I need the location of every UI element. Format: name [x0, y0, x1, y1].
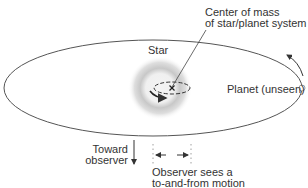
observed-motion-arrows-icon — [153, 144, 191, 166]
center-of-mass-label-line2: of star/planet system — [205, 17, 307, 29]
star-label: Star — [148, 44, 168, 56]
star-glow — [128, 56, 192, 120]
observer-sees-label-line2: to-and-from motion — [152, 177, 245, 188]
planet-label: Planet (unseen) — [227, 83, 305, 95]
toward-observer-label-line2: observer — [78, 154, 128, 166]
